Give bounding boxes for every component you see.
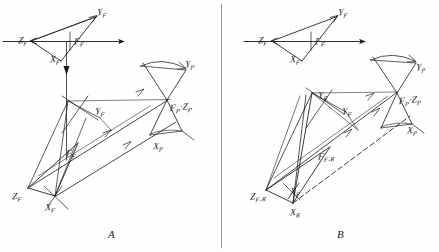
diagram-canvas — [0, 0, 439, 252]
label-xf-b: XF — [290, 187, 300, 198]
label-fpzp-b: FP·ZP — [399, 96, 421, 107]
label-zf-top: ZF — [18, 36, 28, 47]
label-ffr-b: FF-R — [318, 152, 334, 163]
label-yp-b: YP — [416, 63, 426, 74]
panel-b-geometry — [244, 16, 424, 204]
label-zf-bot: ZF — [12, 192, 22, 203]
panel-letter-a: A — [108, 228, 115, 240]
technical-diagram: ZF YF XF FF YP YF FP·ZP XP FF ZF XF A ZF… — [0, 0, 439, 252]
label-xf-bot: XF — [45, 203, 55, 214]
label-xp: XP — [153, 142, 163, 153]
label-yf-mid: YF — [95, 107, 105, 118]
label-xf-top: XF — [50, 55, 60, 66]
label-zfr-b: ZF-R — [250, 192, 266, 203]
label-ff-top: FF — [74, 37, 84, 48]
label-fpzp: FP·ZP — [170, 103, 192, 114]
label-yf-top: YF — [97, 8, 107, 19]
label-xf-top-b: XF — [290, 55, 300, 66]
label-yp: YP — [185, 60, 195, 71]
label-xr-b: XR — [290, 208, 300, 219]
panel-a-lower-frame — [28, 61, 194, 209]
panel-b-top-triangle — [271, 16, 338, 62]
label-yf-mid-b: YF — [342, 107, 352, 118]
label-xp-b: XP — [407, 126, 417, 137]
label-zf-top-b: ZF — [258, 36, 268, 47]
label-ff-mid: FF — [66, 149, 76, 160]
label-ff-top-b: FF — [315, 37, 325, 48]
panel-b-lower-frame — [266, 55, 424, 203]
label-yr-b: YR — [318, 91, 328, 102]
label-yf-top-b: YF — [338, 8, 348, 19]
panel-a-top-triangle — [30, 16, 97, 62]
panel-letter-b: B — [337, 228, 344, 240]
